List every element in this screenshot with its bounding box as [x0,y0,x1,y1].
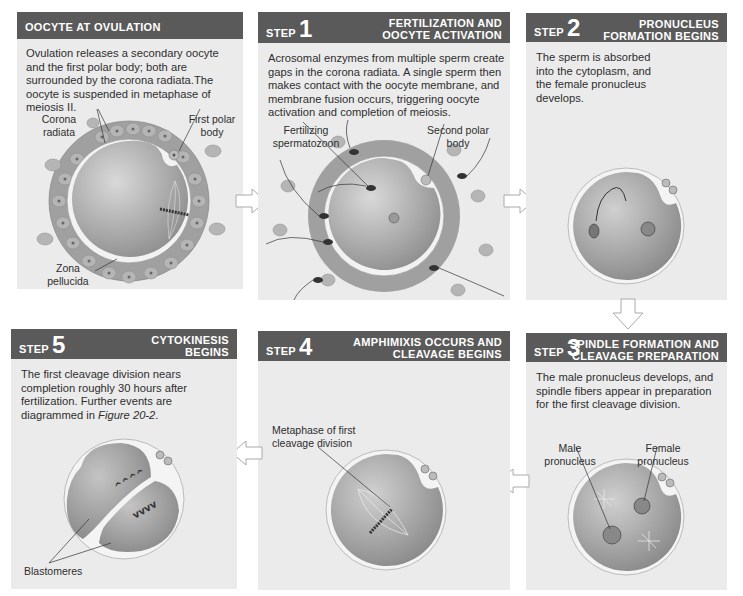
title-line: CLEAVAGE BEGINS [353,348,502,360]
panel-step-5: STEP5 CYTOKINESIS BEGINS The first cleav… [11,329,237,589]
label-line: Corona [29,113,89,126]
panel-title: FERTILIZATION AND OOCYTE ACTIVATION [382,17,502,41]
label-line: pellucida [43,275,93,288]
arrow-down-icon [612,298,644,330]
title-line: CLEAVAGE PREPARATION [570,350,719,362]
label-corona-radiata: Corona radiata [29,113,89,138]
label-line: pronucleus [633,455,693,468]
panel-header: STEP5 CYTOKINESIS BEGINS [11,329,237,359]
cleavage-illustration [258,425,510,585]
panel-title: AMPHIMIXIS OCCURS AND CLEAVAGE BEGINS [353,336,502,360]
panel-step-2: STEP2 PRONUCLEUS FORMATION BEGINS The sp… [526,13,727,300]
panel-title: OOCYTE AT OVULATION [25,21,161,33]
step-number: 5 [52,331,66,358]
panel-header: STEP1 FERTILIZATION AND OOCYTE ACTIVATIO… [258,12,510,43]
panel-description: The sperm is absorbed into the cytoplasm… [536,51,666,105]
label-second-polar-body: Second polar body [418,124,498,149]
label-fertilizing-spermatozoon: Fertilizing spermatozoon [266,124,346,149]
step-prefix: STEP [534,26,564,38]
panel-description: The first cleavage division nears comple… [21,368,233,422]
cytokinesis-illustration: ^^^^ vvvv [11,419,237,589]
label-female-pronucleus: Female pronucleus [633,442,693,467]
label-line: Fertilizing [266,124,346,137]
label-line: body [418,137,498,150]
panel-title: CYTOKINESIS BEGINS [151,334,229,358]
panel-step-1: STEP1 FERTILIZATION AND OOCYTE ACTIVATIO… [258,12,510,300]
panel-header: OOCYTE AT OVULATION [17,12,243,39]
label-zona-pellucida: Zona pellucida [43,262,93,287]
step-number: 1 [299,15,313,42]
step-prefix: STEP [19,343,49,355]
label-metaphase-first-cleavage: Metaphase of first cleavage division [272,424,355,449]
panel-header: STEP3 SPINDLE FORMATION AND CLEAVAGE PRE… [526,333,727,362]
title-line: OOCYTE ACTIVATION [382,29,502,41]
label-line: cleavage division [272,437,355,450]
step-badge: STEP4 [266,337,313,357]
title-line: AMPHIMIXIS OCCURS AND [353,336,502,348]
step-badge: STEP1 [266,19,313,39]
title-line: CYTOKINESIS [151,334,229,346]
label-line: radiata [29,126,89,139]
label-male-pronucleus: Male pronucleus [540,442,600,467]
title-line: FORMATION BEGINS [603,30,719,42]
panel-title: PRONUCLEUS FORMATION BEGINS [603,18,719,42]
label-line: pronucleus [540,455,600,468]
label-line: First polar [177,113,243,126]
label-line: Second polar [418,124,498,137]
panel-description: Ovulation releases a secondary oocyte an… [26,47,238,115]
label-blastomeres: Blastomeres [24,565,82,578]
label-line: Zona [43,262,93,275]
panel-description: The male pronucleus develops, and spindl… [536,371,721,412]
pronucleus-illustration [526,161,727,291]
panel-step-3: STEP3 SPINDLE FORMATION AND CLEAVAGE PRE… [526,333,727,590]
label-line: Male [540,442,600,455]
panel-description: Acrosomal enzymes from multiple sperm cr… [268,52,506,120]
label-line: Metaphase of first [272,424,355,437]
title-line: FERTILIZATION AND [382,17,502,29]
panel-title: SPINDLE FORMATION AND CLEAVAGE PREPARATI… [570,338,719,362]
step-prefix: STEP [266,27,296,39]
panel-step-4: STEP4 AMPHIMIXIS OCCURS AND CLEAVAGE BEG… [258,331,510,590]
step-number: 4 [299,333,313,360]
label-first-polar-body: First polar body [177,113,243,138]
step-prefix: STEP [534,346,564,358]
label-line: spermatozoon [266,137,346,150]
panel-header: STEP4 AMPHIMIXIS OCCURS AND CLEAVAGE BEG… [258,331,510,361]
step-badge: STEP5 [19,335,66,355]
title-line: SPINDLE FORMATION AND [570,338,719,350]
label-line: Female [633,442,693,455]
label-line: body [177,126,243,139]
title-line: BEGINS [151,346,229,358]
panel-header: STEP2 PRONUCLEUS FORMATION BEGINS [526,13,727,42]
title-line: PRONUCLEUS [603,18,719,30]
step-prefix: STEP [266,345,296,357]
step-badge: STEP2 [534,18,581,38]
panel-oocyte-at-ovulation: OOCYTE AT OVULATION Ovulation releases a… [17,12,243,289]
step-number: 2 [567,14,581,41]
